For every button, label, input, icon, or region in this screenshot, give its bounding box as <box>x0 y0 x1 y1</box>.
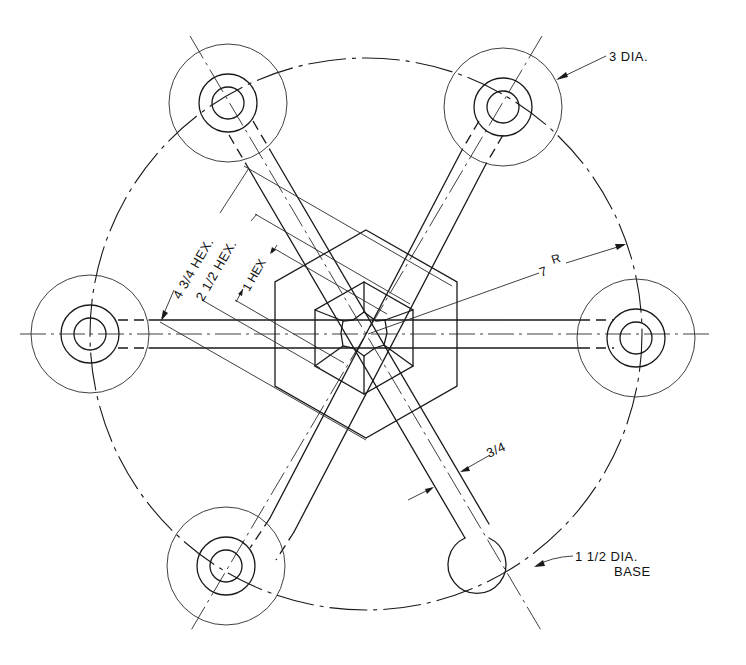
label-base: BASE <box>614 564 651 579</box>
hub-upper-right <box>444 48 562 166</box>
dim-base-diameter: 1 1/2 DIA. BASE <box>534 549 651 579</box>
dim-hub-diameter: 3 DIA. <box>556 49 648 80</box>
label-base-diameter: 1 1/2 DIA. <box>575 549 638 564</box>
hub-upper-left <box>169 44 287 162</box>
dim-arm-width: 3/4 <box>408 439 508 500</box>
hub-right <box>577 279 695 397</box>
hub-lower-left <box>167 507 285 625</box>
label-hub-diameter: 3 DIA. <box>609 49 648 64</box>
arm-diagonal-up <box>250 121 503 560</box>
label-bolt-radius: 7 <box>537 263 549 280</box>
dim-hex-small: 1 HEX <box>236 245 277 302</box>
technical-drawing: 3 DIA. 7 R 4 3/4 HEX. 2 1/2 HEX. 1 HEX <box>0 0 746 665</box>
base-circle <box>448 538 506 593</box>
label-hex-small: 1 HEX <box>239 256 268 293</box>
label-bolt-radius-suffix: R <box>550 251 563 267</box>
label-arm-width: 3/4 <box>484 439 508 461</box>
